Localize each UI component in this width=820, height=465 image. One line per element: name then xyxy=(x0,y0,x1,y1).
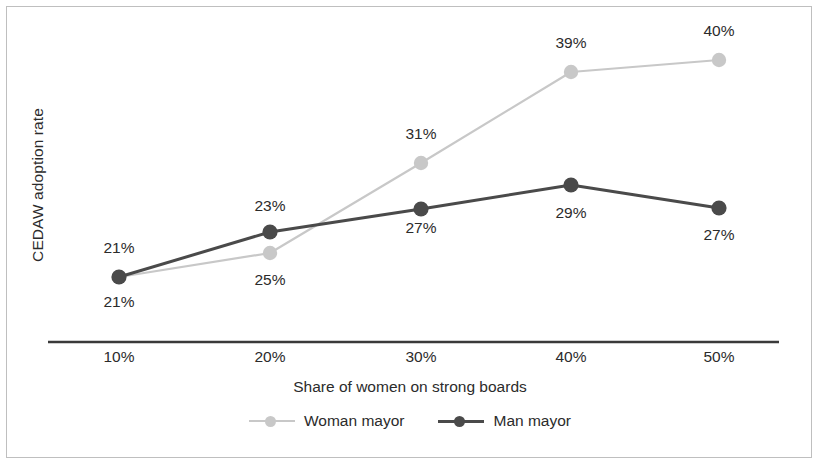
x-axis-tick-label: 10% xyxy=(74,348,164,366)
data-point-marker[interactable] xyxy=(712,53,726,67)
chart-figure: CEDAW adoption rate 10%20%30%40%50% Shar… xyxy=(0,0,820,465)
data-point-value-label: 31% xyxy=(381,125,461,143)
legend-swatch xyxy=(249,414,295,428)
data-point-value-label: 27% xyxy=(679,226,759,244)
legend-marker-icon xyxy=(265,416,276,427)
legend-label: Woman mayor xyxy=(304,412,405,430)
y-axis-title: CEDAW adoption rate xyxy=(29,85,47,285)
data-point-marker[interactable] xyxy=(262,224,277,239)
legend-entry[interactable]: Man mayor xyxy=(438,412,571,430)
data-point-marker[interactable] xyxy=(563,177,578,192)
data-point-marker[interactable] xyxy=(111,269,126,284)
data-point-marker[interactable] xyxy=(564,65,578,79)
data-point-value-label: 23% xyxy=(230,197,310,215)
x-axis-tick-label: 40% xyxy=(526,348,616,366)
data-point-value-label: 21% xyxy=(79,239,159,257)
data-point-value-label: 40% xyxy=(679,22,759,40)
chart-legend: Woman mayorMan mayor xyxy=(0,412,820,430)
legend-label: Man mayor xyxy=(493,412,571,430)
x-axis-tick-label: 20% xyxy=(225,348,315,366)
legend-entry[interactable]: Woman mayor xyxy=(249,412,405,430)
series-line-woman-mayor xyxy=(112,53,726,284)
data-point-marker[interactable] xyxy=(711,200,726,215)
data-point-value-label: 25% xyxy=(230,271,310,289)
data-point-value-label: 29% xyxy=(531,204,611,222)
data-point-marker[interactable] xyxy=(263,246,277,260)
x-axis-tick-label: 30% xyxy=(376,348,466,366)
legend-swatch xyxy=(438,414,484,428)
x-axis-tick-label: 50% xyxy=(674,348,764,366)
data-point-marker[interactable] xyxy=(414,156,428,170)
x-axis-title: Share of women on strong boards xyxy=(0,378,820,396)
data-point-marker[interactable] xyxy=(413,201,428,216)
legend-marker-icon xyxy=(454,416,465,427)
data-point-value-label: 21% xyxy=(79,293,159,311)
data-point-value-label: 27% xyxy=(381,219,461,237)
data-point-value-label: 39% xyxy=(531,34,611,52)
